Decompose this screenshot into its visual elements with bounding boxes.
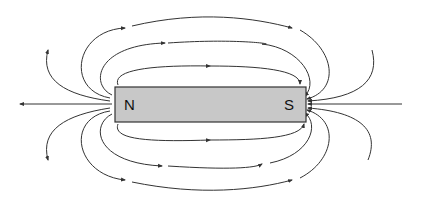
north-pole-label: N <box>124 96 135 113</box>
bar-magnet: N S <box>115 87 306 122</box>
south-pole-label: S <box>284 96 294 113</box>
magnetic-field-diagram: N S <box>0 0 422 209</box>
magnet-body <box>115 87 306 122</box>
